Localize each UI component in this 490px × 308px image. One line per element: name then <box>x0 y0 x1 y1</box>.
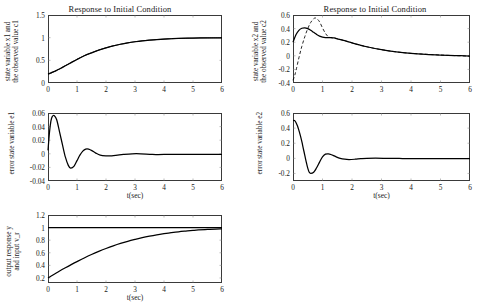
panel-y-ylabel-line2: and input v_r <box>13 232 21 270</box>
panel-y-ylabel: output response y and input v_r <box>5 212 22 290</box>
panel-x1-xtick-3: 3 <box>133 85 137 94</box>
panel-e2-ylabel-line1: error state variable e2 <box>256 112 264 174</box>
panel-x2-xtick-4: 4 <box>409 85 413 94</box>
panel-x2-xtick-0: 0 <box>291 85 295 94</box>
panel-e2-ylabel: error state variable e2 <box>256 104 264 182</box>
panel-y-ytick-3: 0.8 <box>22 236 45 245</box>
panel-x1: Response to Initial Condition state vari… <box>0 2 240 102</box>
panel-e1-ylabel-line1: error state variable e1 <box>8 112 16 174</box>
series-y-1 <box>48 229 222 278</box>
panel-x2-ylabel-line1: state variable x2 and <box>252 22 260 81</box>
series-e1-0 <box>48 115 222 168</box>
panel-y-ytick-0: 0.2 <box>22 274 45 283</box>
panel-e1-xlabel: t(sec) <box>48 191 222 200</box>
panel-x1-xtick-6: 6 <box>220 85 224 94</box>
panel-x1-ylabel-line1: state variable x1 and <box>4 22 12 81</box>
panel-x2-xtick-1: 1 <box>321 85 325 94</box>
panel-x2-xtick-2: 2 <box>350 85 354 94</box>
panel-e2-ytick-1: 0 <box>265 154 290 163</box>
panel-x1-ylabel: state variable x1 and the observed value… <box>4 8 21 94</box>
panel-x1-ytick-2: 1 <box>24 33 45 42</box>
panel-x1-xtick-5: 5 <box>191 85 195 94</box>
panel-x2-ytick-0: -0.4 <box>265 79 290 88</box>
panel-e1-ytick-1: -0.02 <box>17 163 45 172</box>
panel-x2-xtick-6: 6 <box>468 85 472 94</box>
panel-x1-xtick-1: 1 <box>75 85 79 94</box>
panel-x2-ytick-5: 0.6 <box>265 11 290 20</box>
panel-x2-ytick-3: 0.2 <box>265 38 290 47</box>
panel-e2-ytick-3: 0.4 <box>265 124 290 133</box>
panel-x2-ytick-1: -0.2 <box>265 65 290 74</box>
panel-e1-ylabel: error state variable e1 <box>8 104 16 182</box>
panel-x1-xtick-2: 2 <box>104 85 108 94</box>
panel-x1-ytick-3: 1.5 <box>24 11 45 20</box>
series-x2-0 <box>293 28 470 56</box>
panel-e2-ytick-2: 0.2 <box>265 139 290 148</box>
panel-y-ylabel-line1: output response y <box>5 226 13 277</box>
panel-e1-ytick-5: 0.06 <box>17 109 45 118</box>
panel-x2-title: Response to Initial Condition <box>275 4 475 14</box>
panel-e2-ytick-4: 0.6 <box>265 109 290 118</box>
panel-e2-xlabel: t(sec) <box>293 191 470 200</box>
panel-x2-plot <box>293 15 470 83</box>
panel-y-ytick-4: 1 <box>22 223 45 232</box>
panel-e1-ytick-4: 0.04 <box>17 122 45 131</box>
series-x1-0 <box>48 38 222 74</box>
panel-x2-xtick-5: 5 <box>439 85 443 94</box>
panel-e1-ytick-0: -0.04 <box>17 177 45 186</box>
panel-x1-ytick-0: 0 <box>24 79 45 88</box>
panel-e1-ytick-3: 0.02 <box>17 136 45 145</box>
panel-x1-xtick-4: 4 <box>162 85 166 94</box>
panel-x1-plot <box>48 15 222 83</box>
panel-y: output response y and input v_r 1.2 1 0.… <box>0 205 240 308</box>
panel-x2-ytick-4: 0.4 <box>265 24 290 33</box>
panel-e2-ytick-0: -0.2 <box>265 169 290 178</box>
series-e2-0 <box>293 120 470 173</box>
figure-canvas: Response to Initial Condition state vari… <box>0 0 490 308</box>
panel-x1-xtick-0: 0 <box>46 85 50 94</box>
panel-x2-ytick-2: 0 <box>265 51 290 60</box>
panel-y-xlabel: t(sec) <box>48 293 222 302</box>
panel-y-plot <box>48 215 222 283</box>
panel-e1-plot <box>48 113 222 181</box>
panel-y-ytick-2: 0.6 <box>22 248 45 257</box>
panel-x2: Response to Initial Condition state vari… <box>245 2 490 102</box>
panel-e2-plot <box>293 113 470 181</box>
panel-x1-ylabel-line2: the observed value c1 <box>12 20 20 82</box>
panel-x2-xtick-3: 3 <box>380 85 384 94</box>
panel-e1-ytick-2: 0 <box>17 149 45 158</box>
panel-e2: error state variable e2 0.6 0.4 0.2 0 -0… <box>245 104 490 204</box>
panel-e1: error state variable e1 0.06 0.04 0.02 0… <box>0 104 240 204</box>
panel-y-ytick-5: 1.2 <box>22 211 45 220</box>
panel-y-ytick-1: 0.4 <box>22 261 45 270</box>
series-x1-1 <box>48 38 222 75</box>
panel-x1-ytick-1: 0.5 <box>24 56 45 65</box>
